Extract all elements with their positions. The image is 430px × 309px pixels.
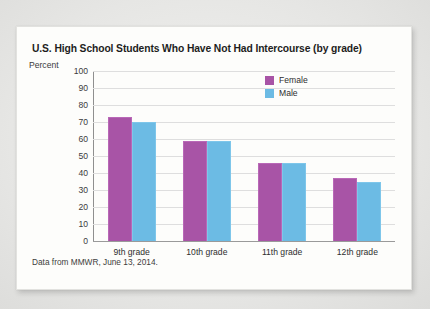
legend-swatch-female (265, 76, 274, 85)
bar-groups: 9th grade10th grade11th grade12th grade (94, 71, 395, 241)
y-axis-tick-label: 0 (83, 236, 88, 246)
x-axis-tick-label: 9th grade (113, 247, 149, 257)
bar-male-12th-grade[interactable] (357, 182, 381, 242)
y-axis-tick-label: 40 (78, 168, 88, 178)
x-axis-tick-label: 11th grade (262, 247, 302, 257)
y-axis-tick-label: 10 (78, 219, 88, 229)
y-axis-tick-label: 100 (74, 66, 88, 76)
bar-female-12th-grade[interactable] (333, 178, 357, 241)
y-axis-tick-label: 60 (78, 134, 88, 144)
y-axis-tick-label: 20 (78, 202, 88, 212)
y-axis-title: Percent (29, 60, 59, 70)
bar-male-9th-grade[interactable] (132, 122, 156, 241)
gridline-0: 0 (93, 241, 395, 242)
y-axis-tick-label: 70 (78, 117, 88, 127)
chart-card: U.S. High School Students Who Have Not H… (16, 26, 412, 290)
y-axis-tick-label: 90 (78, 83, 88, 93)
y-axis-tick-label: 30 (78, 185, 88, 195)
bar-group: 12th grade (320, 71, 395, 241)
legend-swatch-male (265, 89, 274, 98)
bar-group: 9th grade (94, 71, 169, 241)
source-note: Data from MMWR, June 13, 2014. (32, 257, 158, 267)
legend-label: Female (279, 75, 308, 85)
plot-wrapper: Percent 1009080706050403020100 9th grade… (17, 65, 413, 255)
y-axis-tick-label: 50 (78, 151, 88, 161)
bar-female-11th-grade[interactable] (258, 163, 282, 241)
chart-title: U.S. High School Students Who Have Not H… (32, 43, 362, 54)
x-axis-tick-label: 12th grade (337, 247, 378, 257)
bar-male-10th-grade[interactable] (207, 141, 231, 241)
x-axis-tick-label: 10th grade (186, 247, 227, 257)
legend-item-female[interactable]: Female (265, 75, 308, 85)
bar-female-10th-grade[interactable] (183, 141, 207, 241)
legend-item-male[interactable]: Male (265, 88, 308, 98)
chart-legend: FemaleMale (265, 75, 308, 98)
plot-area: 1009080706050403020100 9th grade10th gra… (93, 71, 395, 241)
bar-female-9th-grade[interactable] (108, 117, 132, 241)
bar-group: 10th grade (169, 71, 244, 241)
legend-label: Male (279, 88, 298, 98)
y-axis-tick-label: 80 (78, 100, 88, 110)
bar-male-11th-grade[interactable] (282, 163, 306, 241)
